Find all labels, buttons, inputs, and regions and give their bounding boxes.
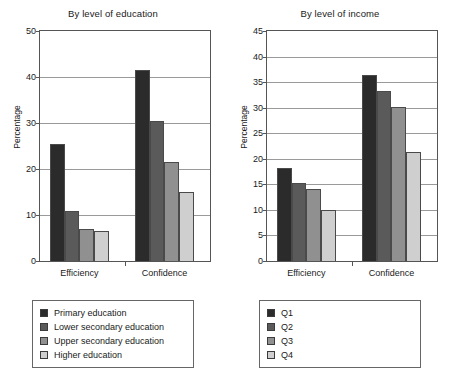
- legend-swatch-lower-secondary-education: [40, 323, 48, 331]
- y-axis-label-income: Percentage: [239, 87, 249, 167]
- legend-item[interactable]: Upper secondary education: [40, 334, 187, 348]
- y-axis-tick-mark: [263, 235, 267, 236]
- legend-swatch-q3: [267, 337, 275, 345]
- bar[interactable]: [406, 152, 421, 261]
- plot-area-income: 051015202530354045EfficiencyConfidence: [266, 30, 438, 262]
- legend-item[interactable]: Primary education: [40, 306, 187, 320]
- plot-area-education: 01020304050EfficiencyConfidence: [39, 30, 211, 262]
- bar[interactable]: [164, 162, 179, 261]
- bar[interactable]: [321, 210, 336, 261]
- legend-item[interactable]: Higher education: [40, 348, 187, 362]
- bar[interactable]: [50, 144, 65, 261]
- x-axis-tick-label: Efficiency: [60, 268, 98, 278]
- legend-swatch-higher-education: [40, 351, 48, 359]
- bar[interactable]: [135, 70, 150, 261]
- y-axis-tick-mark: [36, 215, 40, 216]
- bar-group: Confidence: [362, 31, 422, 261]
- legend-item[interactable]: Q4: [267, 348, 414, 362]
- legend-label: Q3: [281, 337, 293, 346]
- y-axis-tick-mark: [36, 123, 40, 124]
- legend-swatch-q1: [267, 309, 275, 317]
- figure: By level of education Percentage 0102030…: [0, 0, 453, 383]
- legend-label: Higher education: [54, 351, 122, 360]
- legend-income: Q1 Q2 Q3 Q4: [259, 300, 421, 368]
- y-axis-tick-label: 45: [253, 26, 263, 36]
- y-axis-tick-label: 10: [26, 210, 36, 220]
- bar[interactable]: [362, 75, 377, 261]
- y-axis-tick-mark: [263, 31, 267, 32]
- y-axis-tick-label: 30: [253, 103, 263, 113]
- legend-label: Lower secondary education: [54, 323, 164, 332]
- bar[interactable]: [150, 121, 165, 261]
- x-axis-tick-mark: [125, 261, 126, 266]
- bar[interactable]: [292, 183, 307, 261]
- bar[interactable]: [94, 231, 109, 261]
- bar[interactable]: [391, 107, 406, 261]
- chart-title-education: By level of education: [0, 8, 226, 19]
- bar[interactable]: [306, 189, 321, 261]
- bar[interactable]: [277, 168, 292, 261]
- y-axis-tick-mark: [263, 184, 267, 185]
- legend-item[interactable]: Q1: [267, 306, 414, 320]
- y-axis-tick-label: 35: [253, 77, 263, 87]
- y-axis-tick-mark: [263, 210, 267, 211]
- x-axis-tick-mark: [352, 261, 353, 266]
- y-axis-tick-mark: [36, 77, 40, 78]
- y-axis-tick-mark: [263, 261, 267, 262]
- chart-panel-education: By level of education Percentage 0102030…: [0, 0, 226, 383]
- y-axis-tick-label: 10: [253, 205, 263, 215]
- legend-education: Primary education Lower secondary educat…: [32, 300, 194, 368]
- y-axis-tick-mark: [36, 169, 40, 170]
- bar[interactable]: [377, 91, 392, 261]
- y-axis-tick-mark: [263, 108, 267, 109]
- x-axis-tick-label: Confidence: [142, 268, 188, 278]
- legend-label: Q4: [281, 351, 293, 360]
- y-axis-tick-label: 25: [253, 128, 263, 138]
- legend-swatch-primary-education: [40, 309, 48, 317]
- y-axis-label-education: Percentage: [12, 87, 22, 167]
- legend-label: Q2: [281, 323, 293, 332]
- y-axis-tick-label: 15: [253, 179, 263, 189]
- bar[interactable]: [179, 192, 194, 261]
- y-axis-tick-label: 30: [26, 118, 36, 128]
- y-axis-tick-label: 50: [26, 26, 36, 36]
- legend-item[interactable]: Q3: [267, 334, 414, 348]
- y-axis-tick-label: 40: [26, 72, 36, 82]
- legend-swatch-upper-secondary-education: [40, 337, 48, 345]
- chart-title-income: By level of income: [227, 8, 453, 19]
- y-axis-tick-label: 20: [26, 164, 36, 174]
- y-axis-tick-mark: [36, 31, 40, 32]
- legend-item[interactable]: Lower secondary education: [40, 320, 187, 334]
- legend-swatch-q4: [267, 351, 275, 359]
- chart-panel-income: By level of income Percentage 0510152025…: [227, 0, 453, 383]
- y-axis-tick-mark: [263, 57, 267, 58]
- y-axis-tick-mark: [263, 133, 267, 134]
- bar-group: Efficiency: [277, 31, 337, 261]
- plot-wrap-income: Percentage 051015202530354045EfficiencyC…: [227, 26, 453, 278]
- bar[interactable]: [79, 229, 94, 261]
- y-axis-tick-label: 40: [253, 52, 263, 62]
- bar[interactable]: [65, 211, 80, 261]
- x-axis-tick-label: Efficiency: [287, 268, 325, 278]
- legend-swatch-q2: [267, 323, 275, 331]
- bar-group: Efficiency: [50, 31, 110, 261]
- legend-label: Primary education: [54, 309, 127, 318]
- bar-group: Confidence: [135, 31, 195, 261]
- legend-item[interactable]: Q2: [267, 320, 414, 334]
- legend-label: Upper secondary education: [54, 337, 164, 346]
- y-axis-tick-label: 20: [253, 154, 263, 164]
- y-axis-tick-mark: [36, 261, 40, 262]
- legend-label: Q1: [281, 309, 293, 318]
- x-axis-tick-label: Confidence: [369, 268, 415, 278]
- plot-wrap-education: Percentage 01020304050EfficiencyConfiden…: [0, 26, 226, 278]
- y-axis-tick-mark: [263, 159, 267, 160]
- y-axis-tick-mark: [263, 82, 267, 83]
